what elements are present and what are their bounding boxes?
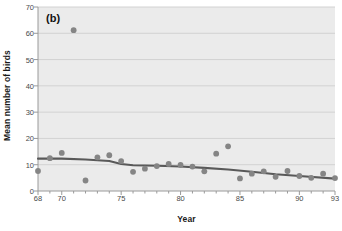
x-tick-label: 75 bbox=[109, 194, 133, 203]
x-tick-label: 80 bbox=[169, 194, 193, 203]
x-tick-label: 93 bbox=[323, 194, 342, 203]
x-tick-label: 70 bbox=[50, 194, 74, 203]
x-tick-label: 68 bbox=[26, 194, 50, 203]
x-tick-labels: 68707580859093 bbox=[0, 0, 342, 231]
x-tick-label: 90 bbox=[287, 194, 311, 203]
x-axis-title: Year bbox=[38, 214, 335, 224]
x-tick-label: 85 bbox=[228, 194, 252, 203]
y-axis-title: Mean number of birds bbox=[0, 0, 14, 191]
bird-count-scatter-figure: (b) 010203040506070 68707580859093 Mean … bbox=[0, 0, 342, 231]
